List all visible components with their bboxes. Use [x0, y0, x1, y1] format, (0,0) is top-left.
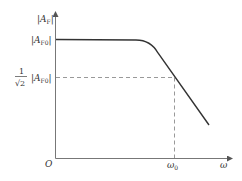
lowpass-frequency-response-diagram: |AF| |AF0| 1 √2 |AF0| O ω0 ω: [0, 0, 242, 181]
cutoff-fraction-denominator: √2: [15, 79, 25, 88]
origin-label: O: [45, 159, 53, 169]
cutoff-fraction-numerator: 1: [19, 67, 24, 76]
y-axis-label: |AF|: [37, 14, 54, 25]
passband-gain-label: |AF0|: [31, 35, 52, 46]
cutoff-gain-label: |AF0|: [31, 73, 52, 84]
cutoff-frequency-label: ω0: [167, 160, 178, 171]
response-curve: [56, 40, 209, 126]
x-axis-label: ω: [220, 160, 228, 170]
